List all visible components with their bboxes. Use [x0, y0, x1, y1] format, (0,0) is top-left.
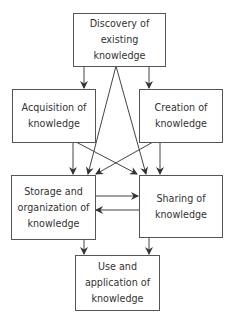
node-discovery: Discovery of existing knowledge — [73, 13, 166, 67]
node-use: Use and application of knowledge — [75, 255, 160, 311]
node-label-line: Acquisition of — [22, 100, 87, 116]
node-label-line: knowledge — [90, 48, 150, 64]
node-label-line: Creation of — [155, 100, 208, 116]
node-label-line: application of — [85, 275, 150, 291]
node-sharing: Sharing of knowledge — [139, 175, 223, 238]
edge-acquisition-sharing — [76, 142, 137, 174]
node-label-line: organization of — [18, 200, 90, 216]
node-label-line: Use and — [85, 259, 150, 275]
node-acquisition: Acquisition of knowledge — [12, 89, 96, 143]
node-creation: Creation of knowledge — [139, 89, 223, 143]
node-label-line: knowledge — [22, 116, 87, 132]
node-label-line: Storage and — [18, 184, 90, 200]
node-label-line: knowledge — [85, 291, 150, 307]
node-storage: Storage and organization of knowledge — [11, 175, 96, 240]
node-label-line: knowledge — [155, 116, 208, 132]
node-label-line: Discovery of — [90, 16, 150, 32]
node-label-line: knowledge — [18, 216, 90, 232]
node-label-line: Sharing of — [155, 191, 207, 207]
node-label-line: existing — [90, 32, 150, 48]
node-label-line: knowledge — [155, 207, 207, 223]
